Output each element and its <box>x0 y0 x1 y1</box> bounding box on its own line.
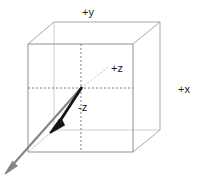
axis-label-positive-z: +z <box>111 63 123 74</box>
cube-edge-depth-top-left <box>28 22 54 44</box>
cube-edge-depth-top-right <box>133 22 160 44</box>
z-axis-dashed-line <box>81 66 110 88</box>
axis-label-positive-x: +x <box>178 84 190 95</box>
cube-edge-depth-bottom-right <box>133 130 160 152</box>
cube-back-face <box>54 22 160 130</box>
gray-vector-shaft <box>9 88 81 169</box>
cube-depth-edges <box>28 22 160 152</box>
axis-label-positive-y: +y <box>82 7 94 18</box>
cube-front-face <box>28 44 133 152</box>
axis-label-negative-z: -z <box>78 102 87 113</box>
negative-z-vector-gray-tail <box>5 88 81 174</box>
dashed-axes <box>28 44 133 152</box>
diagram-canvas: +y +x +z -z <box>0 0 210 180</box>
